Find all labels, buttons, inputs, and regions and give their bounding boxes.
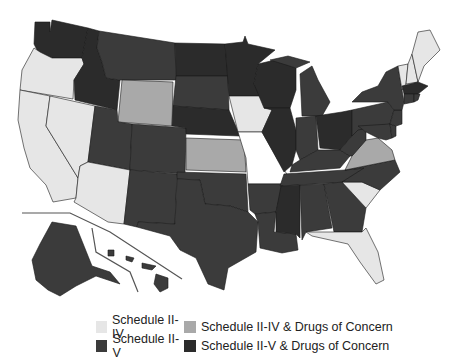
state-mi[interactable] [300, 66, 330, 116]
state-wy[interactable] [118, 80, 173, 126]
state-ri[interactable] [414, 94, 420, 102]
legend-label: Schedule II-V & Drugs of Concern [201, 339, 389, 353]
legend-item-schedule-ii-v: Schedule II-V [96, 332, 184, 360]
swatch-medium-icon [184, 321, 196, 333]
state-hi[interactable] [108, 250, 168, 292]
state-ct[interactable] [404, 94, 414, 104]
legend-label: Schedule II-V [112, 332, 184, 360]
state-wa[interactable] [34, 20, 88, 58]
state-nm[interactable] [124, 170, 177, 227]
state-sd[interactable] [173, 76, 229, 110]
swatch-dark-icon [96, 340, 107, 352]
state-fl[interactable] [306, 228, 384, 284]
legend-label: Schedule II-IV & Drugs of Concern [201, 320, 393, 334]
state-ks[interactable] [186, 138, 246, 172]
us-map [0, 0, 459, 305]
state-nd[interactable] [175, 43, 228, 76]
state-me[interactable] [412, 30, 440, 82]
state-ny[interactable] [352, 66, 404, 110]
legend-item-schedule-ii-v-drugs-of-concern: Schedule II-V & Drugs of Concern [184, 339, 389, 353]
legend-item-schedule-ii-iv-drugs-of-concern: Schedule II-IV & Drugs of Concern [184, 320, 393, 334]
legend: Schedule II-IV Schedule II-IV & Drugs of… [96, 317, 456, 355]
swatch-darkest-icon [184, 340, 196, 352]
state-co[interactable] [130, 124, 186, 174]
state-az[interactable] [74, 162, 130, 224]
state-mt[interactable] [97, 31, 176, 80]
state-ms[interactable] [276, 185, 300, 238]
